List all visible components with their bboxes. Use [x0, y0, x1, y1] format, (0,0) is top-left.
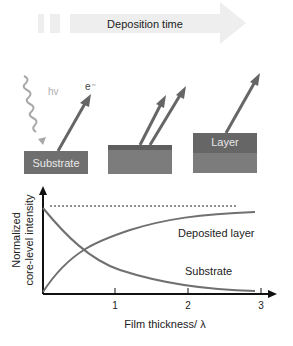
layer-box-label: Layer — [211, 136, 239, 148]
substrate-annotation: Substrate — [185, 265, 232, 277]
x-tick-3: 3 — [258, 300, 264, 311]
photon-wave-icon — [24, 76, 37, 132]
panel-substrate: hv e⁻ Substrate — [24, 76, 96, 174]
electron-label: e⁻ — [85, 81, 96, 92]
x-tick-1: 1 — [112, 300, 118, 311]
thin-layer — [108, 145, 172, 150]
photon-label: hv — [48, 86, 59, 97]
y-axis-label-line1: Normalized — [10, 212, 22, 268]
x-tick-2: 2 — [185, 300, 191, 311]
panel-thick-layer: Layer — [193, 73, 260, 173]
panel-thin-layer — [108, 86, 186, 174]
substrate-box-label: Substrate — [32, 157, 79, 169]
substrate-curve — [43, 208, 255, 291]
intensity-chart: 1 2 3 Film thickness/ λ Normalized core-… — [10, 186, 277, 330]
deposition-time-label: Deposition time — [107, 18, 183, 30]
substrate-box-2 — [108, 150, 172, 174]
y-axis-label-line2: core-level intensity — [23, 194, 35, 286]
deposited-layer-annotation: Deposited layer — [178, 227, 255, 239]
x-axis-label: Film thickness/ λ — [124, 318, 206, 330]
deposited-layer-curve — [43, 212, 255, 292]
substrate-box-3 — [193, 153, 257, 173]
deposition-diagram: Deposition time hv e⁻ Substrate Layer — [0, 0, 293, 346]
